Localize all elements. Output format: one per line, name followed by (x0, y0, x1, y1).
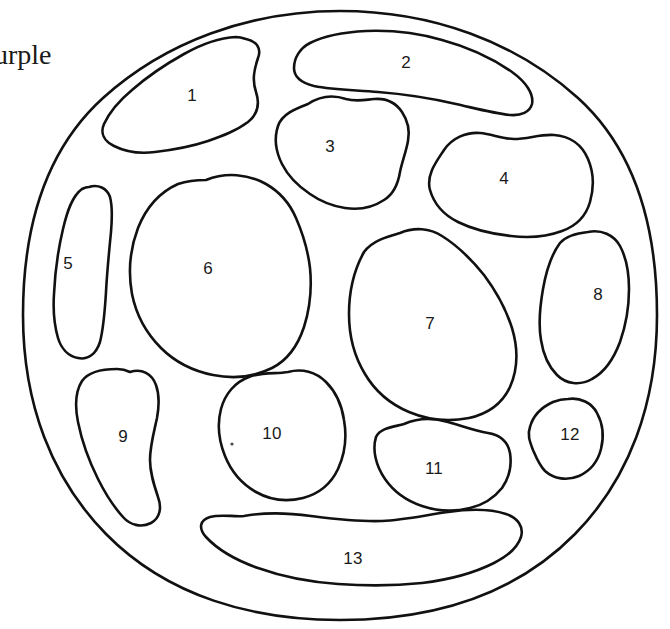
region-5-label: 5 (63, 254, 73, 273)
region-12-label: 12 (560, 425, 579, 444)
region-map-figure: 1 2 3 4 5 6 7 (0, 0, 670, 629)
region-3-label: 3 (325, 137, 335, 156)
region-7-label: 7 (425, 314, 435, 333)
region-6-label: 6 (203, 259, 213, 278)
caption-fragment: urple (0, 39, 52, 70)
region-9-label: 9 (118, 427, 128, 446)
figure-page: 1 2 3 4 5 6 7 (0, 0, 670, 629)
region-13-label: 13 (343, 549, 362, 568)
region-11-label: 11 (425, 459, 443, 478)
region-10-label: 10 (262, 424, 281, 443)
region-8-label: 8 (593, 285, 603, 304)
region-1-label: 1 (187, 86, 197, 105)
region-4-label: 4 (499, 169, 509, 188)
ink-speck (230, 442, 233, 445)
region-2-label: 2 (401, 53, 411, 72)
